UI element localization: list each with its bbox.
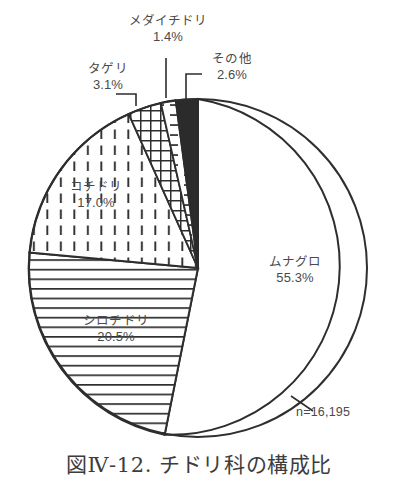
slice-label-kochidori-percent: 17.0%: [42, 195, 150, 211]
slice-label-munaguro-percent: 55.3%: [240, 270, 350, 286]
slice-label-tageri-percent: 3.1%: [62, 77, 154, 93]
slice-label-medaichidori: メダイチドリ 1.4%: [108, 14, 228, 45]
slice-label-shirochidori-percent: 20.5%: [58, 329, 174, 345]
slice-label-tageri: タゲリ 3.1%: [62, 62, 154, 93]
slice-label-sonota: その他 2.6%: [186, 52, 278, 83]
sample-size-label: n=16,195: [296, 405, 350, 419]
slice-label-kochidori-name: コチドリ: [42, 180, 150, 195]
slice-label-sonota-name: その他: [186, 52, 278, 67]
slice-label-medaichidori-percent: 1.4%: [108, 29, 228, 45]
slice-label-shirochidori: シロチドリ 20.5%: [58, 314, 174, 345]
slice-label-kochidori: コチドリ 17.0%: [42, 180, 150, 211]
figure-caption: 図Ⅳ-12. チドリ科の構成比: [0, 448, 398, 478]
slice-label-munaguro: ムナグロ 55.3%: [240, 255, 350, 286]
leader-line-tageri: [116, 94, 136, 106]
slice-label-medaichidori-name: メダイチドリ: [108, 14, 228, 29]
slice-label-shirochidori-name: シロチドリ: [58, 314, 174, 329]
figure-container: メダイチドリ 1.4% タゲリ 3.1% その他 2.6% コチドリ 17.0%…: [0, 0, 398, 502]
slice-label-sonota-percent: 2.6%: [186, 67, 278, 83]
slice-label-tageri-name: タゲリ: [62, 62, 154, 77]
slice-label-munaguro-name: ムナグロ: [240, 255, 350, 270]
